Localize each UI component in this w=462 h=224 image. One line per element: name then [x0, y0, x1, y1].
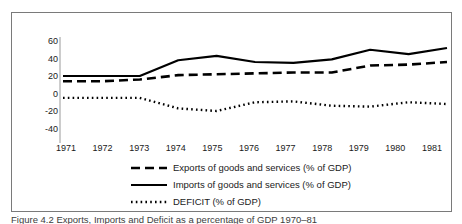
x-tick-1974: 1974: [161, 143, 191, 157]
legend-item-imports: Imports of goods and services (% of GDP): [130, 176, 430, 193]
y-tick-20: 20: [24, 71, 58, 81]
series-line-deficit: [63, 98, 447, 111]
x-tick-1979: 1979: [344, 143, 374, 157]
x-tick-1977: 1977: [271, 143, 301, 157]
y-tick-0: 0: [24, 89, 58, 99]
dotted-line-icon: [130, 196, 168, 208]
dashed-line-icon: [130, 162, 168, 174]
y-tick-minus20: -20: [24, 106, 58, 116]
x-tick-1973: 1973: [124, 143, 154, 157]
x-tick-1972: 1972: [88, 143, 118, 157]
figure-frame: 60 40 20 0 -20 -40 197119721973197419751…: [11, 12, 452, 212]
x-tick-1975: 1975: [197, 143, 227, 157]
y-tick-minus40: -40: [24, 124, 58, 134]
legend-item-exports: Exports of goods and services (% of GDP): [130, 159, 430, 176]
x-tick-1980: 1980: [380, 143, 410, 157]
series-line-exports: [63, 62, 447, 81]
legend-item-deficit: DEFICIT (% of GDP): [130, 193, 430, 210]
series-group: [63, 48, 447, 111]
x-axis-tick-labels: 1971197219731974197519761977197819791980…: [62, 143, 447, 157]
y-tick-40: 40: [24, 54, 58, 64]
x-tick-1971: 1971: [51, 143, 81, 157]
solid-line-icon: [130, 179, 168, 191]
x-tick-1976: 1976: [234, 143, 264, 157]
legend-label-exports: Exports of goods and services (% of GDP): [173, 162, 351, 173]
series-line-imports: [63, 48, 447, 76]
y-tick-60: 60: [24, 36, 58, 46]
figure-caption: Figure 4.2 Exports, Imports and Deficit …: [11, 214, 461, 224]
x-tick-1981: 1981: [417, 143, 447, 157]
y-axis-tick-labels: 60 40 20 0 -20 -40: [24, 13, 58, 213]
legend-label-deficit: DEFICIT (% of GDP): [173, 196, 261, 207]
legend-label-imports: Imports of goods and services (% of GDP): [173, 179, 351, 190]
chart-legend: Exports of goods and services (% of GDP)…: [130, 159, 430, 210]
x-tick-1978: 1978: [307, 143, 337, 157]
